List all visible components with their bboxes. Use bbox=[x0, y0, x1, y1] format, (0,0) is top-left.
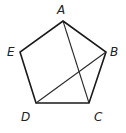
vertex-label-e: E bbox=[7, 45, 15, 59]
pentagon-svg: A B C D E bbox=[0, 0, 126, 133]
diagonal-ac bbox=[63, 21, 89, 103]
vertex-label-a: A bbox=[56, 3, 65, 17]
vertex-label-b: B bbox=[110, 45, 118, 59]
vertex-label-d: D bbox=[21, 110, 30, 124]
diagonal-db bbox=[36, 52, 106, 103]
pentagon-diagram: A B C D E bbox=[0, 0, 126, 133]
vertex-label-c: C bbox=[94, 110, 103, 124]
